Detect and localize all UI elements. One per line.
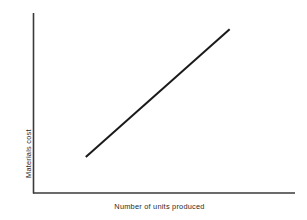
data-line-materials-cost [86,29,230,157]
x-axis-label: Number of units produced [0,203,307,210]
y-axis-label: Materials cost [25,18,32,178]
chart-plot-area [0,0,307,220]
chart-figure: Number of units produced Materials cost [0,0,307,220]
